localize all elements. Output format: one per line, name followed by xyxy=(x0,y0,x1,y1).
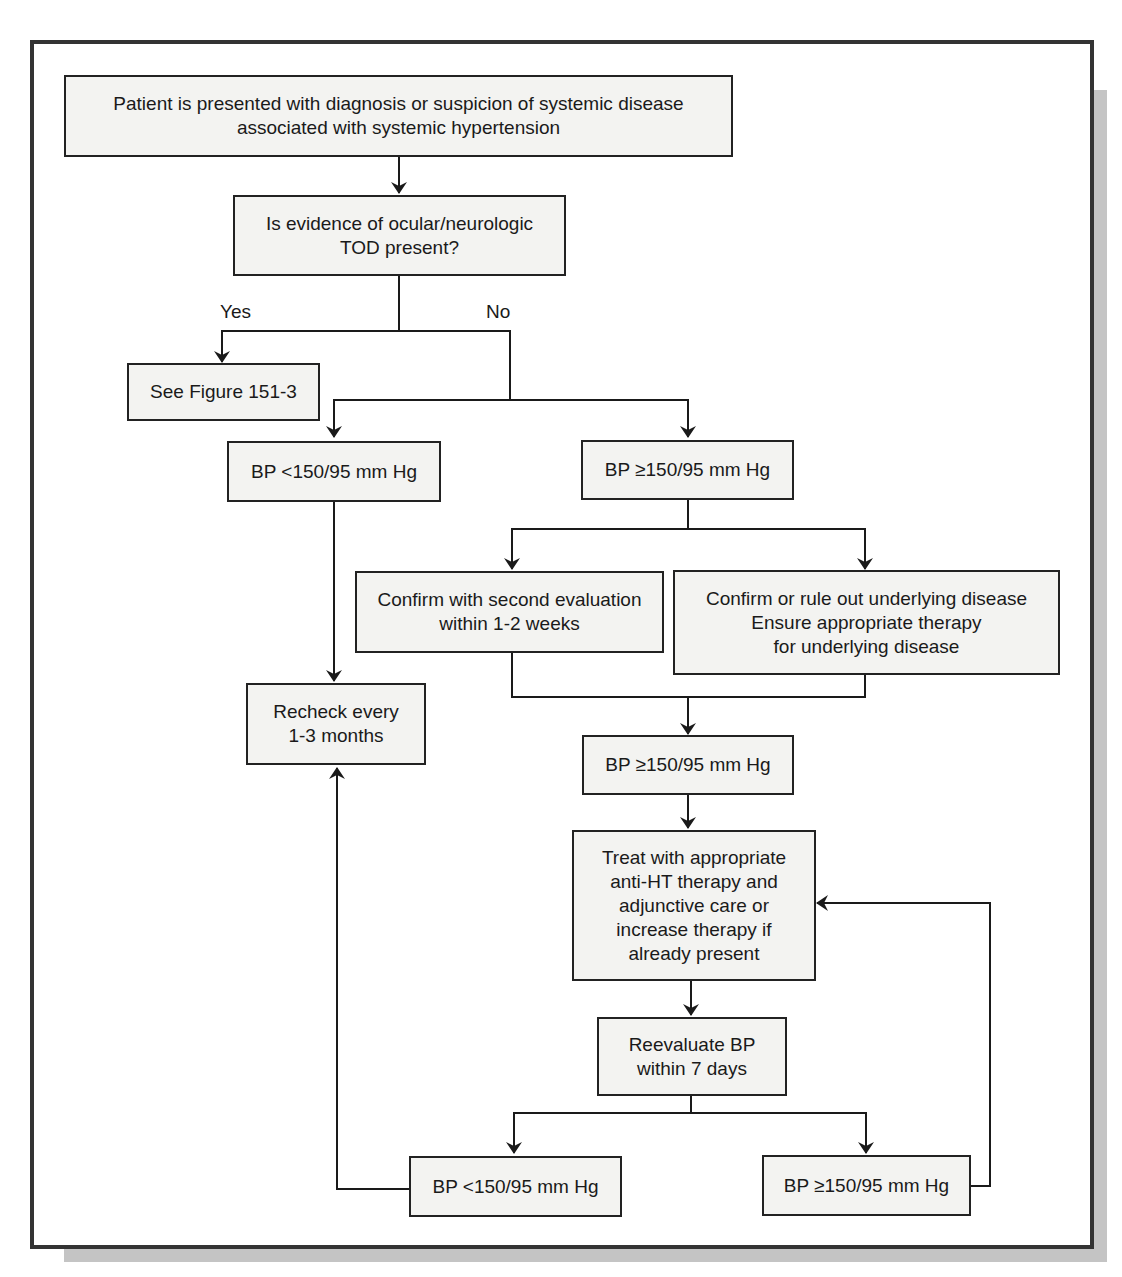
frame-shadow-right xyxy=(1093,90,1107,1262)
confirm-second-eval-box: Confirm with second evaluation within 1-… xyxy=(355,571,664,653)
bp-high-box-1: BP ≥150/95 mm Hg xyxy=(581,440,794,500)
bp-high-box-3: BP ≥150/95 mm Hg xyxy=(762,1155,971,1216)
reevaluate-box: Reevaluate BP within 7 days xyxy=(597,1017,787,1096)
bp-high-box-2: BP ≥150/95 mm Hg xyxy=(582,735,794,795)
confirm-underlying-disease-box: Confirm or rule out underlying disease E… xyxy=(673,570,1060,675)
treat-box: Treat with appropriate anti-HT therapy a… xyxy=(572,830,816,981)
see-figure-box: See Figure 151-3 xyxy=(127,363,320,421)
recheck-box: Recheck every 1-3 months xyxy=(246,683,426,765)
frame-shadow-bottom xyxy=(64,1248,1107,1262)
yes-label: Yes xyxy=(220,301,251,323)
bp-low-box-1: BP <150/95 mm Hg xyxy=(227,441,441,502)
no-label: No xyxy=(486,301,510,323)
start-box: Patient is presented with diagnosis or s… xyxy=(64,75,733,157)
bp-low-box-2: BP <150/95 mm Hg xyxy=(409,1156,622,1217)
tod-question-box: Is evidence of ocular/neurologic TOD pre… xyxy=(233,195,566,276)
